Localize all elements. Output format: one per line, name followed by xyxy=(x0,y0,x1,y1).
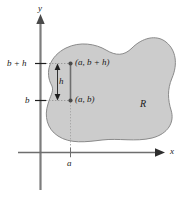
x-axis-label: x xyxy=(170,147,174,156)
region-label-r: R xyxy=(140,99,146,109)
upper-point-label: (a, b + h) xyxy=(75,58,110,67)
upper-point-marker xyxy=(68,61,72,65)
y-axis-label: y xyxy=(38,4,42,13)
y-axis-arrowhead xyxy=(36,14,44,24)
x-tick-label-a: a xyxy=(67,159,72,168)
h-measure-label: h xyxy=(59,77,64,86)
x-axis-arrowhead xyxy=(155,148,165,156)
lower-point-label: (a, b) xyxy=(75,95,95,104)
region-r-shape xyxy=(46,38,175,142)
y-tick-label-upper: b + h xyxy=(7,59,27,68)
figure-canvas: y x b + h b a (a, b + h) (a, b) h R xyxy=(0,0,187,200)
y-tick-label-lower: b xyxy=(25,96,30,105)
lower-point-marker xyxy=(68,98,72,102)
